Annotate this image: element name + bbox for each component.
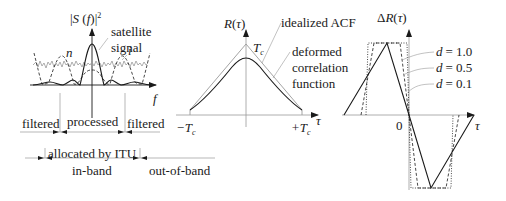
noise-label: n	[66, 45, 73, 60]
satellite-label-1: satellite	[111, 24, 152, 39]
legend-d10: d= 1.0	[436, 44, 472, 59]
spectrum-panel: |S (f)|2 f satellite signal n i filtered…	[20, 11, 215, 178]
acf-peak-label: Tc	[253, 40, 264, 57]
in-band-label: in-band	[72, 163, 112, 178]
filtered-left-label: filtered	[22, 116, 60, 131]
deformed-label-1: deformed	[292, 44, 342, 59]
disc-x-label: τ	[475, 118, 481, 133]
deformed-label-2: correlation	[292, 60, 349, 75]
arrowhead-left-2	[118, 130, 124, 134]
spectrum-x-label: f	[153, 91, 159, 106]
itu-arrowhead-4	[141, 156, 147, 160]
acf-left-tick: −Tc	[176, 120, 196, 137]
deformed-label-3: function	[292, 76, 336, 91]
filtered-right-label: filtered	[127, 116, 165, 131]
acf-y-label: R(τ)	[223, 16, 245, 31]
spectrum-y-label: |S (f)|2	[70, 11, 101, 26]
satellite-label-2: signal	[111, 40, 142, 55]
acf-x-label: τ	[316, 113, 322, 128]
legend-leader-d01	[408, 84, 434, 92]
ideal-leader-line	[262, 23, 281, 63]
disc-y-label: ΔR(τ)	[377, 10, 407, 25]
legend-d05: d= 0.5	[436, 60, 472, 75]
diagram-canvas: |S (f)|2 f satellite signal n i filtered…	[0, 0, 506, 201]
diagram-svg: |S (f)|2 f satellite signal n i filtered…	[0, 0, 506, 201]
noise-curve	[33, 61, 148, 68]
processed-label: processed	[67, 114, 119, 129]
interference-label: i	[128, 43, 132, 58]
discriminator-panel: ΔR(τ) 0 τ d= 1.0 d= 0.5 d= 0.1	[342, 10, 481, 190]
idealized-acf-label: idealized ACF	[281, 15, 356, 30]
allocated-itu-label: allocated by ITU	[48, 146, 137, 161]
itu-arrowhead-1	[38, 156, 44, 160]
satellite-leader-line	[99, 38, 108, 50]
deformed-leader-line	[273, 52, 290, 78]
legend-d01: d= 0.1	[436, 76, 472, 91]
legend-leader-d10	[402, 52, 434, 60]
acf-right-tick: +Tc	[291, 120, 311, 137]
acf-panel: R(τ) Tc τ −Tc +Tc idealized ACF deformed…	[176, 15, 356, 137]
arrowhead-right-1	[61, 130, 67, 134]
disc-origin-label: 0	[396, 118, 403, 133]
out-of-band-label: out-of-band	[149, 163, 211, 178]
